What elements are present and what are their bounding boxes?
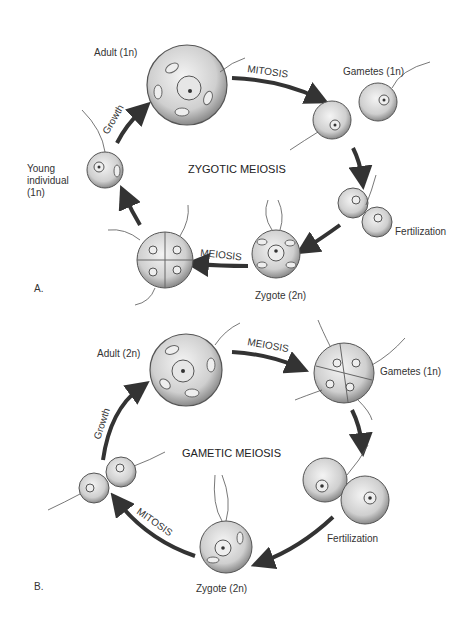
label-young-l2-a: individual bbox=[27, 175, 69, 186]
zygote-b bbox=[200, 475, 252, 573]
panel-b: Adult (2n) MEIOSIS Gametes (1n) bbox=[34, 320, 441, 594]
adult-cell-b bbox=[150, 323, 240, 406]
title-zygotic-meiosis: ZYGOTIC MEIOSIS bbox=[188, 163, 286, 175]
arrow-to-fertilization-a bbox=[353, 148, 362, 178]
label-meiosis-b: MEIOSIS bbox=[247, 336, 290, 354]
fertilization-a bbox=[338, 175, 392, 237]
arrow-mitosis-a bbox=[232, 78, 318, 98]
label-mitosis-b: MITOSIS bbox=[135, 506, 175, 539]
panel-a: Adult (1n) MITOSIS Gametes (1n) Fertiliz… bbox=[27, 45, 446, 305]
arrow-meiosis-b bbox=[232, 352, 298, 367]
label-young-l3-a: (1n) bbox=[27, 187, 45, 198]
fertilization-b bbox=[303, 445, 389, 524]
label-mitosis-a: MITOSIS bbox=[247, 63, 289, 80]
label-young-l1-a: Young bbox=[27, 163, 55, 174]
label-adult-b: Adult (2n) bbox=[97, 348, 140, 359]
zygote-a bbox=[252, 200, 300, 278]
arrow-to-young-a bbox=[125, 196, 140, 225]
label-adult-a: Adult (1n) bbox=[94, 47, 137, 58]
life-cycle-diagram: Adult (1n) MITOSIS Gametes (1n) Fertiliz… bbox=[0, 0, 475, 617]
title-gametic-meiosis: GAMETIC MEIOSIS bbox=[182, 447, 281, 459]
label-fertilization-a: Fertilization bbox=[395, 226, 446, 237]
label-meiosis-a: MEIOSIS bbox=[200, 247, 243, 262]
label-fertilization-b: Fertilization bbox=[327, 533, 378, 544]
adult-cell-a bbox=[147, 45, 245, 125]
arrow-to-fertilization-b bbox=[352, 410, 362, 445]
label-gametes-a: Gametes (1n) bbox=[343, 66, 404, 77]
young-individuals-b bbox=[48, 452, 165, 510]
panel-label-a: A. bbox=[34, 283, 43, 294]
panel-label-b: B. bbox=[34, 581, 43, 592]
arrow-meiosis-a bbox=[197, 264, 248, 266]
arrow-to-zygote-b bbox=[262, 517, 333, 562]
arrow-growth-b bbox=[103, 388, 140, 460]
label-zygote-a: Zygote (2n) bbox=[255, 290, 306, 301]
arrow-to-zygote-a bbox=[306, 225, 340, 248]
label-gametes-b: Gametes (1n) bbox=[380, 366, 441, 377]
label-zygote-b: Zygote (2n) bbox=[196, 583, 247, 594]
tetrad-a bbox=[108, 205, 193, 305]
